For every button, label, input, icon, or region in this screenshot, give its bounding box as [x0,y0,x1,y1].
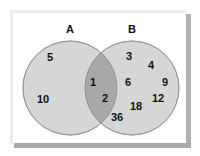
element: 1 [90,76,96,88]
element: 12 [152,92,164,104]
element: 5 [47,51,53,63]
set-a-label: A [66,23,74,35]
frame-bevel-left [10,10,13,144]
element: 6 [125,76,131,88]
venn-diagram: A B 5 10 1 2 3 4 6 9 12 18 36 [0,0,200,156]
frame-shadow-right [186,14,191,148]
element: 10 [37,93,49,105]
frame-bevel-top [10,10,187,13]
element: 9 [162,76,168,88]
element: 4 [148,59,155,71]
element: 18 [130,100,142,112]
element: 3 [126,50,132,62]
frame-shadow-bottom [14,143,191,148]
element: 2 [102,92,108,104]
set-b-label: B [128,23,136,35]
element: 36 [111,111,123,123]
